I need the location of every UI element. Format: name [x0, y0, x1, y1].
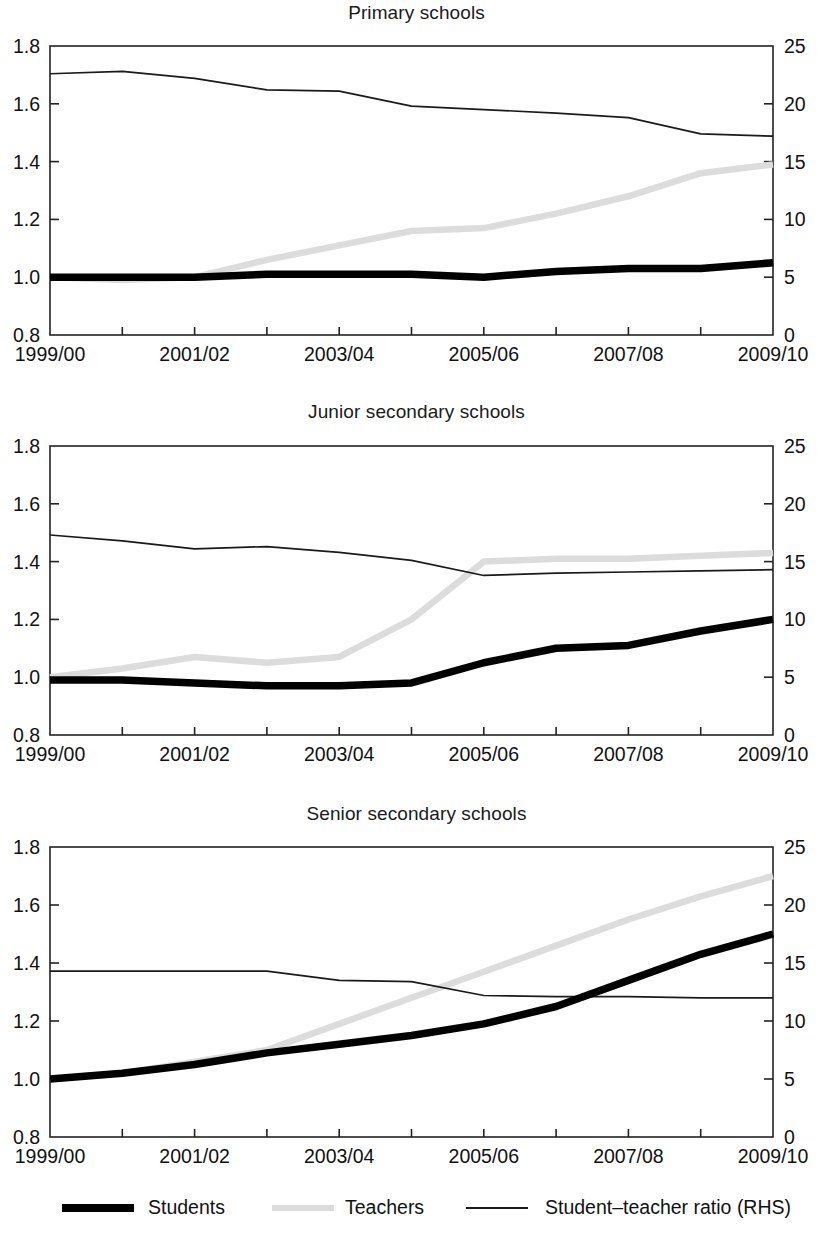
legend-label-ratio: Student–teacher ratio (RHS) [545, 1198, 791, 1218]
series-line-student-teacher-ratio [50, 971, 773, 998]
x-axis-tick-label: 2009/10 [738, 1145, 809, 1167]
x-axis-tick-label: 2003/04 [304, 1145, 375, 1167]
y-axis-tick-label-left: 1.6 [13, 894, 40, 916]
x-axis-tick-label: 2001/02 [159, 1145, 230, 1167]
y-axis-tick-label-left: 1.4 [13, 952, 40, 974]
y-axis-tick-label-right: 20 [784, 894, 806, 916]
series-line-teachers [50, 876, 773, 1079]
series-line-students [50, 934, 773, 1079]
x-axis-tick-label: 1999/00 [15, 1145, 86, 1167]
y-axis-tick-label-left: 1.0 [13, 1068, 40, 1090]
legend-swatch-teachers [272, 1205, 334, 1212]
x-axis-tick-label: 2007/08 [593, 1145, 664, 1167]
legend-swatch-students [62, 1204, 134, 1212]
figure-multi-panel-line-charts: Primary schools0.81.01.21.41.61.80510152… [0, 0, 833, 1236]
plot-frame [50, 847, 773, 1137]
legend-label-teachers: Teachers [345, 1198, 424, 1218]
y-axis-tick-label-left: 1.2 [13, 1010, 40, 1032]
x-axis-tick-label: 2005/06 [449, 1145, 520, 1167]
legend-label-students: Students [148, 1198, 225, 1218]
y-axis-tick-label-right: 5 [784, 1068, 795, 1090]
y-axis-tick-label-left: 1.8 [13, 836, 40, 858]
plot-area: 0.81.01.21.41.61.805101520251999/002001/… [0, 0, 833, 1236]
legend-swatch-ratio [466, 1207, 528, 1209]
chart-legend: StudentsTeachersStudent–teacher ratio (R… [0, 1186, 833, 1236]
y-axis-tick-label-right: 10 [784, 1010, 806, 1032]
y-axis-tick-label-right: 15 [784, 952, 806, 974]
y-axis-tick-label-right: 25 [784, 836, 806, 858]
